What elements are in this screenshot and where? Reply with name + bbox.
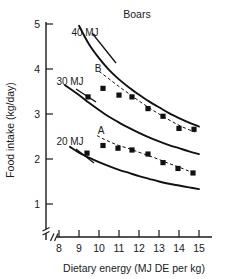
data-point-a bbox=[100, 143, 105, 148]
y-axis-title: Food intake (kg/day) bbox=[4, 82, 16, 178]
x-axis-tick-labels: 89101112131415 bbox=[56, 242, 205, 254]
y-tick-label-1: 1 bbox=[34, 198, 40, 210]
data-point-b bbox=[176, 126, 181, 131]
x-axis-break-icon bbox=[51, 234, 59, 242]
data-point-a bbox=[160, 160, 165, 165]
series-fitlines-group bbox=[97, 71, 195, 173]
data-point-b bbox=[100, 86, 105, 91]
data-point-b bbox=[191, 127, 196, 132]
x-tick-label-15: 15 bbox=[193, 242, 205, 254]
curve-label-30mj: 30 MJ bbox=[56, 76, 83, 87]
chart-canvas: Boars 12345 Food intake (kg/day) 8910111… bbox=[0, 0, 226, 279]
y-tick-label-2: 2 bbox=[34, 153, 40, 165]
data-point-a bbox=[175, 166, 180, 171]
y-axis-ticks bbox=[46, 24, 53, 204]
curve-label-40mj: 40 MJ bbox=[71, 27, 98, 38]
data-point-a bbox=[115, 146, 120, 151]
series-line-40-mj bbox=[79, 26, 199, 127]
y-axis-tick-labels: 12345 bbox=[34, 18, 40, 210]
x-tick-label-14: 14 bbox=[173, 242, 185, 254]
data-point-b bbox=[129, 94, 134, 99]
series-curves-group bbox=[65, 26, 199, 189]
data-point-a bbox=[84, 151, 89, 156]
curve-label-20mj: 20 MJ bbox=[56, 136, 83, 147]
y-tick-label-5: 5 bbox=[34, 18, 40, 30]
series-line-b bbox=[99, 71, 195, 132]
annotations-group: 40 MJ30 MJ20 MJBA bbox=[56, 27, 104, 148]
x-tick-label-13: 13 bbox=[153, 242, 165, 254]
data-point-a bbox=[129, 147, 134, 152]
data-point-b bbox=[116, 93, 121, 98]
chart-title: Boars bbox=[123, 8, 150, 20]
data-point-b bbox=[160, 114, 165, 119]
fit-label-b: B bbox=[95, 63, 102, 74]
y-tick-label-3: 3 bbox=[34, 108, 40, 120]
data-point-a bbox=[190, 170, 195, 175]
x-tick-label-8: 8 bbox=[56, 242, 62, 254]
x-tick-label-11: 11 bbox=[114, 242, 125, 254]
x-axis-title: Dietary energy (MJ DE per kg) bbox=[63, 262, 205, 274]
x-tick-label-9: 9 bbox=[76, 242, 82, 254]
data-point-b bbox=[145, 106, 150, 111]
x-tick-label-10: 10 bbox=[93, 242, 105, 254]
y-tick-label-4: 4 bbox=[34, 63, 40, 75]
chart-figure: Boars 12345 Food intake (kg/day) 8910111… bbox=[0, 0, 226, 279]
data-point-a bbox=[145, 151, 150, 156]
fit-label-a: A bbox=[98, 125, 105, 136]
x-tick-label-12: 12 bbox=[133, 242, 145, 254]
x-axis-ticks bbox=[59, 230, 199, 237]
